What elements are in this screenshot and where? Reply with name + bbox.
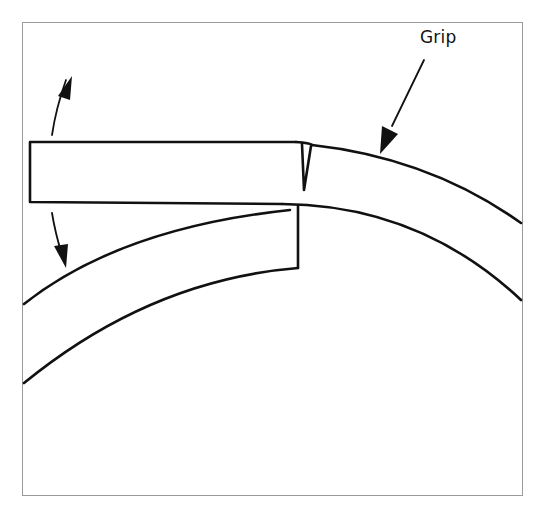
- lifted-ring-segment: [30, 142, 296, 204]
- grip-arrow-head: [380, 126, 398, 154]
- lower-ring-inner-edge: [24, 268, 298, 383]
- upper-ring-bottom-edge: [282, 204, 521, 300]
- twist-arrow-down-head: [54, 244, 68, 268]
- ring-gap-notch: [302, 144, 311, 190]
- upper-ring-top-edge-right: [312, 145, 521, 223]
- upper-ring-top-edge: [296, 142, 312, 145]
- twist-arrow-up-head: [58, 76, 72, 100]
- grip-arrow-shaft: [392, 60, 424, 126]
- grip-label: Grip: [420, 27, 456, 47]
- ring-diagram: [0, 0, 544, 514]
